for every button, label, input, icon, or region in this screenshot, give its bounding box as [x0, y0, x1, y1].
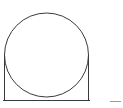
diagram-canvas	[0, 0, 123, 108]
circle-shape	[5, 13, 89, 97]
